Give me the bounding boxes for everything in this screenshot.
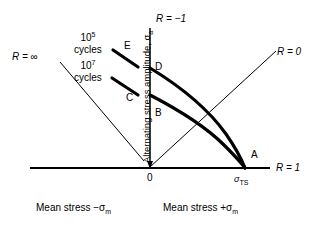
annotation-high-cycle: 105 cycles bbox=[74, 32, 102, 55]
label-r-infinity: R = ∞ bbox=[12, 52, 38, 62]
y-axis-title: Alternating stress amplitude, σa bbox=[142, 31, 152, 163]
fatigue-diagram-figure: R = −1 R = ∞ R = 0 R = 1 105 cycles 107 … bbox=[0, 0, 323, 235]
label-r-zero: R = 0 bbox=[277, 47, 301, 57]
curve-b-a bbox=[150, 95, 245, 168]
annotation-low-cycle: 107 cycles bbox=[74, 60, 102, 83]
r-infinity-line bbox=[60, 62, 144, 161]
point-label-c: C bbox=[126, 93, 133, 103]
y-axis-title-text: Alternating stress amplitude, σ bbox=[141, 35, 152, 163]
annotation-low-cycle-unit: cycles bbox=[74, 72, 102, 83]
annotation-low-cycle-value: 10 bbox=[80, 60, 91, 71]
caption-mean-stress-positive: Mean stress +σm bbox=[163, 203, 238, 213]
annotation-high-cycle-exponent: 5 bbox=[92, 31, 96, 38]
label-r-one: R = 1 bbox=[276, 163, 300, 173]
caption-left-text: Mean stress −σ bbox=[36, 202, 105, 213]
label-r-minus-one: R = −1 bbox=[156, 14, 186, 24]
annotation-high-cycle-value: 10 bbox=[80, 32, 91, 43]
point-label-e: E bbox=[124, 41, 131, 51]
origin-label: 0 bbox=[147, 173, 153, 183]
annotation-low-cycle-exponent: 7 bbox=[92, 59, 96, 66]
point-label-b: B bbox=[155, 108, 162, 118]
caption-left-subscript: m bbox=[105, 208, 111, 215]
tensile-strength-label: σTS bbox=[234, 175, 248, 184]
y-axis-title-subscript: a bbox=[147, 31, 154, 35]
point-label-d: D bbox=[155, 62, 162, 72]
pointer-line-e bbox=[113, 50, 138, 67]
annotation-high-cycle-unit: cycles bbox=[74, 44, 102, 55]
point-label-a: A bbox=[251, 150, 258, 160]
caption-mean-stress-negative: Mean stress −σm bbox=[36, 203, 111, 213]
caption-right-subscript: m bbox=[232, 208, 238, 215]
pointer-line-c bbox=[112, 78, 138, 95]
tensile-strength-subscript: TS bbox=[239, 179, 248, 186]
caption-right-text: Mean stress +σ bbox=[163, 202, 232, 213]
